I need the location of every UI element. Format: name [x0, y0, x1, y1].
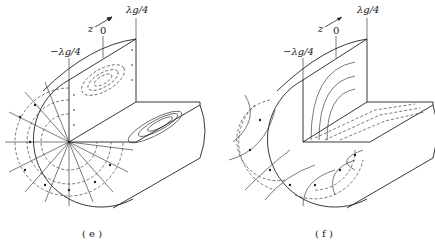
- marker-plus-quarter-wavelength: λg/4: [126, 5, 148, 15]
- marker-minus-quarter-wavelength: −λg/4: [50, 47, 81, 57]
- marker-plus-quarter-wavelength: λg/4: [357, 5, 379, 15]
- panel-caption-f: ( f ): [315, 229, 333, 239]
- panel-caption-e: ( e ): [82, 229, 102, 239]
- axis-label-z: z: [88, 24, 93, 34]
- waveguide-f-drawing: [215, 0, 435, 247]
- panel-e: z −λg/4 0 λg/4 ( e ): [0, 0, 217, 247]
- marker-zero: 0: [100, 26, 106, 36]
- marker-minus-quarter-wavelength: −λg/4: [283, 47, 314, 57]
- marker-zero: 0: [333, 26, 339, 36]
- axis-label-z: z: [318, 24, 323, 34]
- waveguide-e-drawing: [0, 0, 217, 247]
- panel-f: z −λg/4 0 λg/4 ( f ): [215, 0, 432, 247]
